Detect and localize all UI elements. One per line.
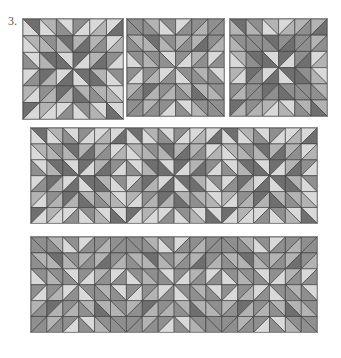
quilt-block-variant-3: [229, 18, 328, 117]
quilt-block-variant-2: [126, 18, 225, 117]
quilt-block-variant-1: [22, 18, 124, 120]
figure-label: 3.: [8, 14, 17, 29]
quilt-row-layout-1: [30, 127, 318, 224]
quilt-row-layout-2: [30, 236, 318, 333]
